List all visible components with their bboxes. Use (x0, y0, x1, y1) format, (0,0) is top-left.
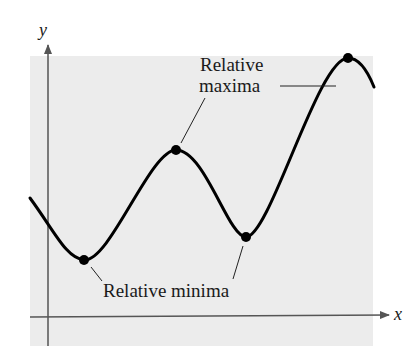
minima-label: Relative minima (103, 280, 230, 301)
relative-maximum-point-1 (171, 145, 181, 155)
maxima-label-line1: Relative (200, 54, 263, 75)
plot-background (30, 56, 373, 346)
relative-minimum-point-1 (79, 255, 89, 265)
relative-extrema-diagram: y x Relative maxima Relative minima (0, 0, 420, 353)
x-axis-label: x (393, 304, 402, 324)
relative-minimum-point-2 (241, 232, 251, 242)
maxima-label-line2: maxima (199, 75, 261, 96)
y-axis-label: y (37, 20, 47, 40)
relative-maximum-point-2 (343, 53, 353, 63)
